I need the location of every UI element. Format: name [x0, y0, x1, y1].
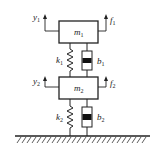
spring-k1: k1 [56, 43, 73, 77]
displacement-y1-label: y1 [32, 12, 40, 23]
force-f1: f1 [98, 14, 116, 31]
displacement-y2: y2 [32, 76, 59, 87]
damper-b2-label: b2 [97, 112, 105, 123]
spring-damper-diagram: m1 y1 f1 k1 b1 m2 y2 f2 [0, 0, 167, 153]
arrow-up-icon [104, 76, 108, 81]
ground [15, 136, 150, 143]
arrow-up-icon [104, 14, 108, 19]
mass-m1: m1 [59, 21, 98, 43]
arrow-up-icon [43, 76, 47, 81]
arrow-up-icon [43, 14, 47, 19]
damper-b2: b2 [82, 99, 105, 136]
force-f1-label: f1 [110, 15, 116, 26]
spring-k1-label: k1 [56, 55, 63, 66]
spring-k2-label: k2 [56, 112, 63, 123]
displacement-y1: y1 [32, 12, 59, 31]
damper-b1: b1 [82, 43, 105, 77]
spring-k2: k2 [56, 99, 73, 136]
force-f2-label: f2 [110, 78, 116, 89]
force-f2: f2 [98, 76, 116, 89]
displacement-y2-label: y2 [32, 76, 40, 87]
mass-m2: m2 [59, 77, 98, 99]
damper-b1-label: b1 [97, 56, 105, 67]
